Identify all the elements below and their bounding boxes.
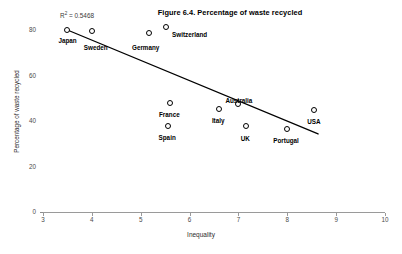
plot-area: Percentage of waste recycled 020406080 3… (0, 0, 402, 254)
data-point[interactable] (165, 123, 171, 129)
data-point-label: Spain (159, 135, 176, 141)
data-point-label: Germany (132, 45, 159, 51)
data-point-label: Japan (58, 38, 76, 44)
data-point[interactable] (146, 30, 152, 36)
data-point[interactable] (243, 123, 249, 129)
data-point-label: UK (241, 136, 250, 142)
data-point[interactable] (167, 100, 173, 106)
data-point-label: Sweden (84, 45, 108, 51)
data-point-label: Portugal (273, 138, 299, 144)
waste-recycled-scatter-chart: Figure 6.4. Percentage of waste recycled… (0, 0, 402, 254)
data-point-label: USA (307, 119, 320, 125)
data-point[interactable] (216, 106, 222, 112)
data-point-label: France (159, 112, 180, 118)
data-point-label: Switzerland (172, 32, 207, 38)
data-point[interactable] (89, 28, 95, 34)
data-point-label: Australia (225, 98, 252, 104)
data-point[interactable] (311, 107, 317, 113)
data-point-label: Italy (212, 118, 225, 124)
x-axis-title: Inequality (0, 231, 402, 238)
